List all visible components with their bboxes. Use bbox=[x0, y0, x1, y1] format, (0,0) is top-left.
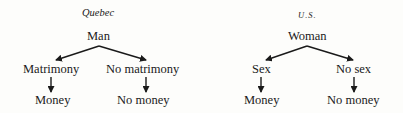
arrow-root-to-left bbox=[266, 46, 307, 60]
arrow-root-to-right bbox=[99, 46, 146, 60]
arrow-root-to-left bbox=[56, 46, 99, 60]
arrow-root-to-right bbox=[307, 46, 353, 60]
arrows-layer bbox=[0, 0, 403, 113]
